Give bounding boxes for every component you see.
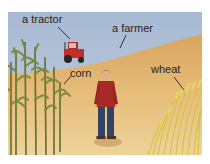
label-tractor: a tractor bbox=[22, 14, 62, 25]
label-wheat: wheat bbox=[151, 64, 180, 75]
farm-illustration: a tractor a farmer corn wheat bbox=[8, 12, 202, 155]
label-farmer: a farmer bbox=[112, 23, 153, 34]
farm-scene-graphic bbox=[8, 12, 202, 155]
label-corn: corn bbox=[70, 68, 91, 79]
